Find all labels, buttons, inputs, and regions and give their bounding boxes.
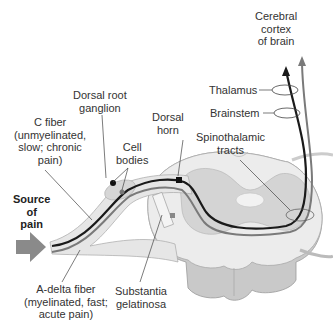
label-substantia-gelatinosa: Substantia gelatinosa — [115, 285, 167, 310]
label-thalamus: Thalamus — [209, 84, 257, 97]
label-brainstem: Brainstem — [210, 107, 260, 120]
source-of-pain-arrow — [16, 232, 46, 262]
synapse-a-delta — [170, 213, 175, 218]
thalamus-ring — [272, 85, 298, 95]
label-c-fiber: C fiber (unmyelinated, slow; chronic pai… — [14, 116, 86, 166]
label-spinothalamic-tracts: Spinothalamic tracts — [196, 131, 265, 156]
label-cell-bodies: Cell bodies — [116, 141, 148, 166]
label-cerebral-cortex: Cerebral cortex of brain — [255, 10, 297, 48]
label-source-of-pain: Source of pain — [13, 193, 50, 231]
cell-body-a-delta — [120, 190, 125, 195]
label-dorsal-horn: Dorsal horn — [152, 111, 184, 136]
label-dorsal-root-ganglion: Dorsal root ganglion — [73, 89, 127, 114]
cell-body-c-fiber — [110, 180, 116, 186]
label-a-delta-fiber: A-delta fiber (myelinated, fast; acute p… — [24, 283, 108, 321]
synapse-c-fiber — [176, 177, 182, 183]
